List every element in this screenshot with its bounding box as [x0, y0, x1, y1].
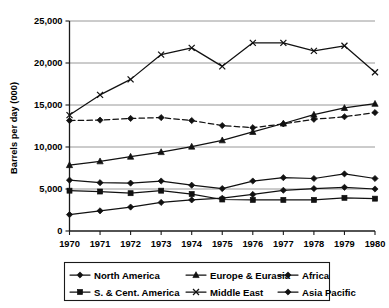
y-tick-label: 25,000 — [34, 16, 62, 26]
series-europe-eurasia — [66, 100, 378, 167]
data-point — [158, 199, 164, 205]
series-path — [70, 104, 376, 165]
data-point — [341, 184, 347, 190]
x-tick-label: 1971 — [90, 239, 111, 249]
data-point — [341, 171, 347, 177]
x-tick-label: 1970 — [59, 239, 80, 249]
data-point — [189, 192, 194, 197]
y-tick-label: 10,000 — [34, 142, 62, 152]
x-tick-label: 1978 — [304, 239, 325, 249]
series-north-america — [66, 109, 378, 130]
data-point — [189, 182, 195, 188]
data-point — [128, 180, 134, 186]
data-point — [158, 115, 164, 121]
y-tick-label: 5,000 — [39, 184, 62, 194]
data-point — [372, 109, 378, 115]
x-tick-label: 1972 — [120, 239, 141, 249]
data-point — [219, 122, 225, 128]
series-path — [70, 43, 376, 115]
data-point — [372, 175, 378, 181]
data-point — [250, 197, 255, 202]
data-point — [128, 191, 133, 196]
y-tick-label: 20,000 — [34, 58, 62, 68]
x-tick-label: 1977 — [273, 239, 294, 249]
series-middle-east — [67, 40, 379, 118]
data-point — [66, 117, 72, 123]
x-tick-label: 1979 — [334, 239, 355, 249]
series-africa — [66, 171, 378, 192]
x-tick-label: 1975 — [212, 239, 233, 249]
x-axis-tick-labels: 1970197119721973197419751976197719781979… — [59, 239, 385, 249]
data-point — [372, 186, 378, 192]
y-tick-label: 0 — [57, 226, 62, 236]
x-tick-label: 1980 — [365, 239, 386, 249]
legend-label: Middle East — [210, 287, 264, 298]
data-point — [66, 177, 72, 183]
chart-canvas: 05,00010,00015,00020,00025,000 197019711… — [0, 0, 389, 308]
legend-label: Asia Pacific — [302, 287, 357, 298]
data-point — [66, 212, 72, 218]
data-point — [250, 191, 256, 197]
data-point — [281, 197, 286, 202]
data-point — [128, 115, 134, 121]
y-axis-tick-labels: 05,00010,00015,00020,00025,000 — [34, 16, 62, 236]
data-point — [67, 188, 72, 193]
data-point — [97, 180, 103, 186]
data-point — [311, 197, 316, 202]
data-point — [97, 117, 103, 123]
data-point — [97, 208, 103, 214]
data-point — [159, 188, 164, 193]
data-point — [373, 196, 378, 201]
x-tick-label: 1974 — [181, 239, 203, 249]
x-tick-label: 1973 — [151, 239, 172, 249]
y-axis-title: Barrels per day (000) — [9, 82, 19, 174]
line-chart: 05,00010,00015,00020,00025,000 197019711… — [0, 0, 389, 308]
data-point — [219, 185, 225, 191]
data-point — [341, 114, 347, 120]
data-point — [311, 175, 317, 181]
data-point — [189, 197, 195, 203]
legend-marker — [78, 290, 83, 295]
data-point — [189, 117, 195, 123]
data-series-layer — [66, 40, 378, 218]
data-point — [128, 204, 134, 210]
legend-label: North America — [94, 270, 160, 281]
legend-label: S. & Cent. America — [94, 287, 180, 298]
legend-label: Africa — [302, 270, 330, 281]
data-point — [342, 195, 347, 200]
gridlines — [70, 21, 376, 189]
data-point — [98, 189, 103, 194]
data-point — [280, 175, 286, 181]
data-point — [311, 185, 317, 191]
x-tick-label: 1976 — [242, 239, 263, 249]
data-point — [372, 100, 378, 106]
y-tick-label: 15,000 — [34, 100, 62, 110]
data-point — [280, 187, 286, 193]
data-point — [158, 178, 164, 184]
data-point — [250, 178, 256, 184]
